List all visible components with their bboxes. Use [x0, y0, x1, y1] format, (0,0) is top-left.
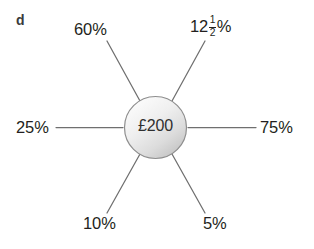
spoke-line-12-half [172, 41, 205, 101]
part-letter-label: d [16, 13, 25, 27]
spoke-label-5: 5% [203, 215, 227, 232]
hub-circle [125, 97, 187, 159]
spoke-label-75: 75% [260, 119, 293, 136]
spoke-line-60 [107, 41, 140, 101]
spoke-line-5 [172, 154, 205, 213]
percentage-spider-diagram: £200 d 60% 1212% 75% 5% 10% 25% [0, 0, 314, 249]
fraction-numerator: 1 [209, 15, 217, 27]
spoke-label-60: 60% [74, 21, 107, 38]
spoke-label-12-half: 1212% [190, 16, 231, 39]
spoke-line-10 [107, 154, 140, 213]
spoke-label-12-half-whole: 12 [190, 17, 208, 35]
fraction-one-half: 12 [209, 15, 217, 38]
spoke-label-25: 25% [16, 119, 49, 136]
spoke-label-12-half-suffix: % [217, 17, 232, 35]
fraction-denominator: 2 [209, 28, 217, 39]
spoke-label-10: 10% [83, 215, 116, 232]
